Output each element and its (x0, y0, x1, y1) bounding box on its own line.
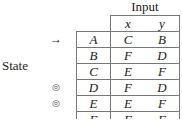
state-cell: A (77, 32, 111, 48)
table-row: B F D (77, 48, 180, 64)
input-header: Input (110, 0, 180, 14)
column-header-y: y (145, 16, 180, 32)
state-cell: F (77, 112, 111, 120)
table-header-row: x y (77, 16, 180, 32)
table-row: F F F (77, 112, 180, 120)
state-cell: B (77, 48, 111, 64)
x-cell: E (111, 96, 146, 112)
corner-cell (77, 16, 111, 32)
state-cell: E (77, 96, 111, 112)
state-cell: D (77, 80, 111, 96)
y-cell: F (145, 64, 180, 80)
x-cell: F (111, 80, 146, 96)
y-cell: F (145, 96, 180, 112)
table-row: C E F (77, 64, 180, 80)
x-cell: F (111, 112, 146, 120)
final-state-icon: ◎ (52, 79, 60, 95)
table-row: D F D (77, 80, 180, 96)
table-row: A C B (77, 32, 180, 48)
start-arrow-icon: → (50, 31, 62, 47)
x-cell: C (111, 32, 146, 48)
transition-table: x y A C B B F D C E F D F D E E F F F F (76, 15, 180, 119)
state-header: State (2, 58, 28, 74)
state-cell: C (77, 64, 111, 80)
column-header-x: x (111, 16, 146, 32)
x-cell: F (111, 48, 146, 64)
x-cell: E (111, 64, 146, 80)
y-cell: F (145, 112, 180, 120)
y-cell: D (145, 80, 180, 96)
y-cell: D (145, 48, 180, 64)
final-state-icon: ◎ (52, 95, 60, 111)
y-cell: B (145, 32, 180, 48)
table-row: E E F (77, 96, 180, 112)
